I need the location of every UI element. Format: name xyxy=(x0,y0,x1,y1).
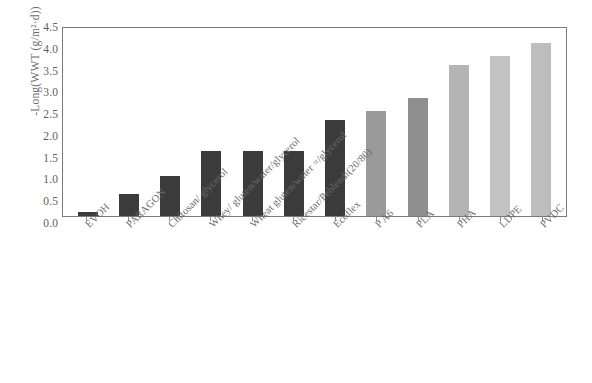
y-tick-label: 3.5 xyxy=(30,65,58,77)
bar xyxy=(490,56,510,216)
y-tick-label: 2.5 xyxy=(30,108,58,120)
bar-slot xyxy=(356,28,397,216)
y-tick-label: 1.5 xyxy=(30,152,58,164)
bar xyxy=(366,111,386,216)
bar xyxy=(449,65,469,216)
y-tick-label: 2.0 xyxy=(30,130,58,142)
bar-slot xyxy=(67,28,108,216)
y-tick-label: 3.0 xyxy=(30,86,58,98)
y-axis-tick-labels: 4.54.03.53.02.52.01.51.00.50.0 xyxy=(30,21,58,217)
bar xyxy=(408,98,428,216)
bar-slot xyxy=(108,28,149,216)
y-tick-label: 1.0 xyxy=(30,173,58,185)
bar-slot xyxy=(480,28,521,216)
bar xyxy=(531,43,551,216)
y-tick-label: 0.0 xyxy=(30,217,58,229)
y-tick-label: 0.5 xyxy=(30,195,58,207)
bar-slot xyxy=(521,28,562,216)
bar-series xyxy=(63,28,566,216)
x-axis-category-labels: EVOHPARAGONChitosan/ glycerolWhey/ glute… xyxy=(62,222,567,372)
bar-chart: -Long(WWT (g/m²·d)) 4.54.03.53.02.52.01.… xyxy=(0,0,592,383)
bar-slot xyxy=(150,28,191,216)
bar-slot xyxy=(438,28,479,216)
y-tick-label: 4.0 xyxy=(30,43,58,55)
plot-area xyxy=(62,27,567,217)
bar-slot xyxy=(397,28,438,216)
y-tick-label: 4.5 xyxy=(30,21,58,33)
